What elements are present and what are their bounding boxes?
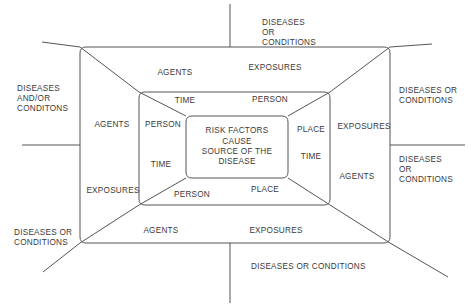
- center-line-3: SOURCE OF THE: [202, 147, 272, 157]
- band-label-exposures-bottom-outer: EXPOSURES: [237, 226, 315, 236]
- band-label-person-top-inner: PERSON: [240, 95, 300, 105]
- band-label-person-left-mid: PERSON: [138, 120, 188, 130]
- diagonal-bottom-right-middle: [330, 205, 390, 243]
- outside-label-left-upper: DISEASES AND/OR CONDITONS: [17, 84, 89, 115]
- band-label-agents-bottom-outer: AGENTS: [131, 226, 191, 236]
- diagonal-top-right-middle: [330, 47, 390, 92]
- band-label-place-bottom-inner: PLACE: [240, 185, 290, 195]
- center-line-2: CAUSE: [222, 137, 251, 147]
- band-label-agents-left-mid: AGENTS: [86, 120, 138, 130]
- outside-label-right-upper: DISEASES OR CONDITIONS: [399, 86, 475, 106]
- band-label-exposures-left-lower: EXPOSURES: [82, 186, 144, 196]
- diagonal-top-right-outer: [390, 44, 432, 47]
- band-label-agents-right-lower: AGENTS: [331, 172, 383, 182]
- center-box-text: RISK FACTORS CAUSE SOURCE OF THE DISEASE: [187, 118, 287, 176]
- center-line-4: DISEASE: [218, 157, 255, 167]
- band-label-time-left-lower: TIME: [137, 160, 185, 170]
- band-label-exposures-right-mid: EXPOSURES: [333, 122, 395, 132]
- band-label-time-right-lower: TIME: [287, 152, 335, 162]
- diagonal-bottom-right-center: [288, 178, 330, 205]
- band-label-person-bottom-inner: PERSON: [162, 190, 222, 200]
- diagonal-top-left-outer: [42, 42, 80, 47]
- diagram-canvas: RISK FACTORS CAUSE SOURCE OF THE DISEASE…: [0, 0, 476, 307]
- outside-label-bottom: DISEASES OR CONDITIONS: [251, 262, 411, 272]
- center-line-1: RISK FACTORS: [206, 126, 269, 136]
- band-label-agents-top-outer: AGENTS: [140, 68, 210, 78]
- band-label-place-right-mid: PLACE: [288, 125, 334, 135]
- band-label-time-top-inner: TIME: [160, 96, 210, 106]
- outside-label-top: DISEASES OR CONDITIONS: [262, 18, 352, 49]
- outside-label-left-lower: DISEASES OR CONDITIONS: [14, 228, 90, 248]
- band-label-exposures-top-outer: EXPOSURES: [236, 63, 314, 73]
- outside-label-right-lower: DISEASES OR CONDITIONS: [399, 155, 475, 186]
